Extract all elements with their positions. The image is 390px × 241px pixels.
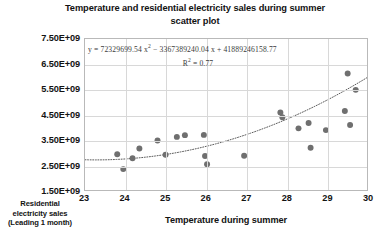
page-edge-artifact: [0, 234, 390, 241]
y-axis-tick-label: 2.50E+09: [0, 161, 80, 171]
gridline-horizontal: [85, 116, 367, 117]
scatter-point: [306, 120, 312, 126]
y-axis-title-line-1: Residential: [0, 199, 80, 209]
gridline-horizontal: [85, 141, 367, 142]
y-axis-title: Residential electricity sales (Leading 1…: [0, 199, 80, 228]
x-axis-tick-label: 26: [191, 193, 221, 204]
chart-title-line-1: Temperature and residential electricity …: [65, 3, 325, 13]
x-axis-tick-label: 27: [231, 193, 261, 204]
scatter-points: [114, 71, 358, 173]
scatter-point: [241, 153, 247, 159]
scatter-point: [182, 132, 188, 138]
gridline-horizontal: [85, 167, 367, 168]
y-axis-tick-label: 3.50E+09: [0, 135, 80, 145]
scatter-point: [345, 71, 351, 77]
y-axis-tick-label: 5.50E+09: [0, 84, 80, 94]
x-axis-tick-label: 28: [272, 193, 302, 204]
scatter-point: [114, 151, 120, 157]
y-axis-title-line-2: electricity sales: [0, 209, 80, 219]
x-axis-tick-label: 24: [110, 193, 140, 204]
x-axis-tick-label: 30: [353, 193, 383, 204]
scatter-point: [130, 155, 136, 161]
chart-title: Temperature and residential electricity …: [40, 2, 350, 27]
trendline-equation: y = 72329699.54 x2 − 3367389240.04 x + 4…: [86, 41, 366, 55]
scatter-point: [347, 122, 353, 128]
scatter-point: [136, 146, 142, 152]
scatter-point: [296, 125, 302, 131]
x-axis-tick-label: 23: [69, 193, 99, 204]
chart-title-line-2: scatter plot: [40, 15, 350, 28]
scatter-point: [174, 134, 180, 140]
trendline-annotation: y = 72329699.54 x2 − 3367389240.04 x + 4…: [86, 41, 366, 68]
x-axis-title: Temperature during summer: [84, 215, 368, 225]
scatter-chart: Temperature and residential electricity …: [0, 0, 390, 241]
x-axis-tick-label: 29: [312, 193, 342, 204]
y-axis-tick-label: 7.50E+09: [0, 33, 80, 43]
scatter-point: [308, 145, 314, 151]
y-axis-tick-label: 4.50E+09: [0, 110, 80, 120]
y-axis-tick-label: 6.50E+09: [0, 59, 80, 69]
x-axis-tick-label: 25: [150, 193, 180, 204]
gridline-horizontal: [85, 90, 367, 91]
trendline-r-squared: R2 = 0.77: [86, 55, 366, 69]
y-axis-title-line-3: (Leading 1 month): [0, 218, 80, 228]
scatter-point: [342, 108, 348, 114]
y-axis-tick-label: 1.50E+09: [0, 186, 80, 196]
